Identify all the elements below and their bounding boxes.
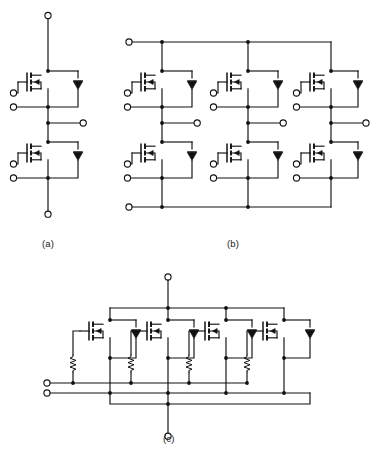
phase-output-terminal[interactable] (80, 120, 86, 126)
junction-dot (246, 205, 250, 209)
dc-negative-rail-terminal[interactable] (126, 204, 132, 210)
upper-source-sense-terminal-u[interactable] (124, 104, 130, 110)
lower-source-sense-terminal[interactable] (10, 175, 16, 181)
mosfet-symbol (254, 322, 277, 341)
lower-source-sense-terminal-w[interactable] (293, 175, 299, 181)
caption-a: (a) (42, 238, 54, 249)
phase-u-output-terminal[interactable] (194, 120, 200, 126)
diode-symbol (273, 152, 283, 161)
source-negative-terminal[interactable] (45, 211, 51, 217)
lower-gate-terminal-w[interactable] (293, 161, 299, 167)
parallel-cell-4 (244, 308, 315, 395)
phase-leg-u (124, 40, 200, 209)
upper-source-sense-terminal-v[interactable] (210, 104, 216, 110)
lower-gate-terminal[interactable] (10, 161, 16, 167)
diode-symbol (73, 152, 83, 161)
mosfet-symbol (301, 73, 324, 92)
upper-switch-a (10, 69, 82, 110)
upper-gate-terminal[interactable] (10, 90, 16, 96)
phase-leg-w (293, 42, 369, 207)
gate-bus-terminal[interactable] (44, 380, 50, 386)
drain-positive-terminal[interactable] (45, 12, 51, 18)
mosfet-symbol (196, 322, 219, 341)
phase-v-output-terminal[interactable] (280, 120, 286, 126)
schematic-canvas (0, 0, 372, 453)
mosfet-symbol (18, 144, 41, 163)
diode-symbol (353, 152, 363, 161)
drain-top-terminal[interactable] (165, 274, 171, 280)
upper-gate-terminal-v[interactable] (210, 90, 216, 96)
diode-symbol (187, 152, 197, 161)
upper-source-sense-terminal[interactable] (10, 104, 16, 110)
lower-gate-terminal-v[interactable] (210, 161, 216, 167)
subfigure-b-three-phase-bridge (124, 39, 369, 210)
dc-positive-rail-terminal[interactable] (126, 39, 132, 45)
gate-resistor-symbol (70, 355, 76, 372)
subfigure-a-halfbridge (10, 12, 86, 217)
phase-w-output-terminal[interactable] (363, 120, 369, 126)
subfigure-c-parallel-switches (44, 274, 315, 439)
mosfet-symbol (218, 73, 241, 92)
mosfet-symbol (18, 73, 41, 92)
phase-leg-v (210, 40, 286, 209)
figure-root: (a) (b) (c) (0, 0, 372, 453)
diode-symbol (305, 330, 315, 339)
diode-symbol (273, 81, 283, 90)
lower-gate-terminal-u[interactable] (124, 161, 130, 167)
upper-gate-terminal-w[interactable] (293, 90, 299, 96)
mosfet-symbol (132, 73, 155, 92)
junction-dot (166, 402, 170, 406)
mosfet-symbol (301, 144, 324, 163)
source-sense-bus-terminal[interactable] (44, 390, 50, 396)
mosfet-symbol (132, 144, 155, 163)
mosfet-symbol (80, 322, 103, 341)
diode-symbol (187, 81, 197, 90)
caption-b: (b) (227, 238, 239, 249)
diode-symbol (353, 81, 363, 90)
caption-c: (c) (163, 433, 175, 444)
mosfet-symbol (138, 322, 161, 341)
mosfet-symbol (218, 144, 241, 163)
upper-source-sense-terminal-w[interactable] (293, 104, 299, 110)
lower-switch-a (10, 140, 82, 181)
diode-symbol (73, 81, 83, 90)
junction-dot (160, 205, 164, 209)
lower-source-sense-terminal-u[interactable] (124, 175, 130, 181)
lower-source-sense-terminal-v[interactable] (210, 175, 216, 181)
upper-gate-terminal-u[interactable] (124, 90, 130, 96)
